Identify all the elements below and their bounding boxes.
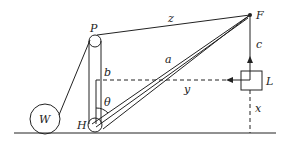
hinge-H (88, 118, 102, 132)
rope-W-to-P (59, 40, 90, 115)
label-b: b (104, 66, 111, 79)
arrow-head-up-icon (247, 56, 253, 63)
label-y: y (183, 83, 191, 96)
label-L: L (265, 75, 273, 88)
label-H: H (76, 119, 87, 132)
label-W: W (39, 113, 52, 126)
label-c: c (256, 38, 262, 51)
boom-center (96, 18, 248, 127)
label-theta: θ (104, 96, 111, 109)
label-a: a (165, 53, 172, 66)
label-z: z (167, 12, 174, 25)
label-P: P (89, 22, 98, 35)
label-F: F (255, 9, 264, 22)
crane-diagram: W P H z a θ b y F c L x (0, 0, 288, 144)
label-x: x (255, 102, 262, 115)
arrow-head-left-icon (226, 77, 233, 83)
pulley-P (89, 35, 101, 47)
boom-upper (92, 15, 250, 124)
